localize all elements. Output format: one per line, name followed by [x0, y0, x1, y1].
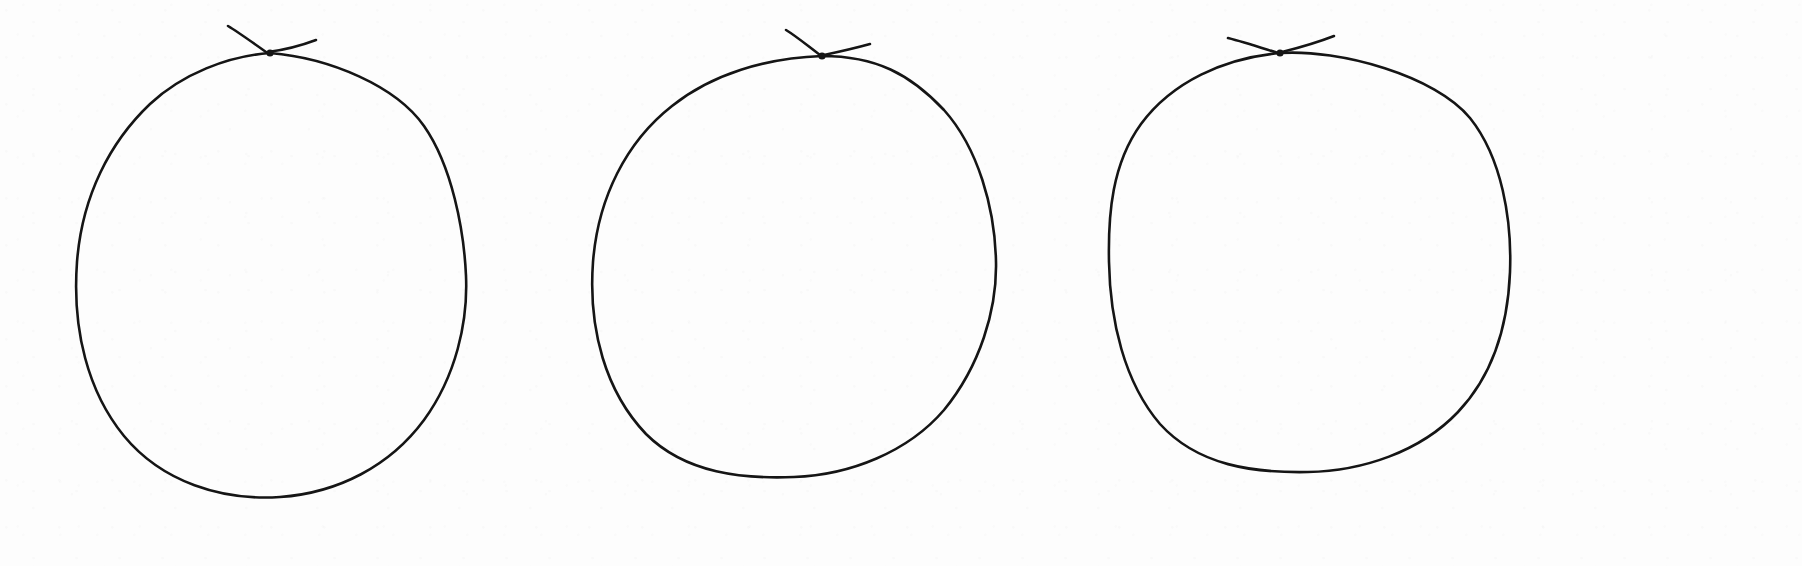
circle-1-tail-right [268, 40, 316, 52]
circle-2-group [592, 30, 996, 477]
circle-1-outline [76, 53, 466, 498]
circle-2-tail-right [824, 44, 870, 55]
circle-3-outline [1109, 53, 1510, 472]
circle-2-crossing-knot [818, 52, 825, 59]
drawing-canvas [0, 0, 1802, 566]
circle-2-tail-left [786, 30, 820, 55]
circle-3-tail-left [1228, 38, 1278, 53]
hand-drawn-circles-figure [0, 0, 1802, 566]
circle-3-tail-right [1282, 36, 1334, 52]
circle-3-crossing-knot [1276, 49, 1283, 56]
circle-3-group [1109, 36, 1510, 472]
circle-2-outline [592, 56, 996, 477]
circle-1-crossing-knot [266, 49, 273, 56]
circle-1-group [76, 26, 466, 498]
circle-1-tail-left [228, 26, 266, 52]
